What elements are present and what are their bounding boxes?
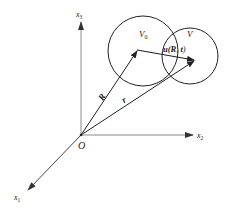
x3-axis-label: x3 <box>75 10 83 20</box>
region-v0-label: V0 <box>139 29 148 40</box>
vector-u-label: u(R, t) <box>163 44 186 54</box>
vector-R-label: R <box>96 92 108 103</box>
vector-R <box>81 51 137 135</box>
x2-axis-label: x2 <box>196 131 204 141</box>
origin-label: O <box>78 140 85 151</box>
x1-axis <box>28 135 81 190</box>
vector-r-label: r <box>120 94 129 105</box>
x1-axis-label: x1 <box>13 193 21 203</box>
origin-point <box>80 134 83 137</box>
region-v-label: V <box>187 29 194 39</box>
displacement-diagram: O x3 x2 x1 V0 V R r u(R, t) <box>0 0 228 213</box>
